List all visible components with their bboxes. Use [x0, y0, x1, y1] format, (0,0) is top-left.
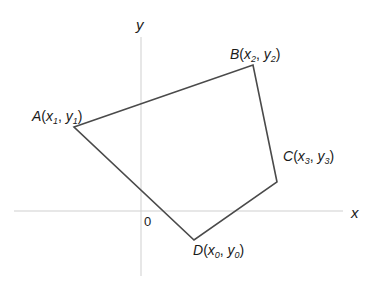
origin-label: 0 [144, 214, 151, 229]
vertex-b-label: B(x2, y2) [230, 46, 281, 64]
coordinate-diagram: y x 0 A(x1, y1) B(x2, y2) C(x3, y3) D(x0… [0, 0, 378, 284]
vertex-d-label: D(x0, y0) [193, 242, 244, 260]
y-axis-label: y [135, 16, 145, 33]
quadrilateral-abcd [74, 65, 277, 240]
x-axis-label: x [350, 204, 359, 221]
vertex-a-label: A(x1, y1) [31, 108, 83, 126]
vertex-c-label: C(x3, y3) [283, 148, 334, 166]
